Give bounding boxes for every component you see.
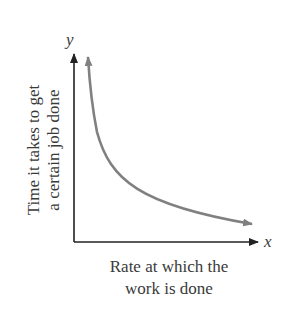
y-axis-label-line-1: Time it takes to get bbox=[24, 45, 44, 255]
x-axis-variable: x bbox=[264, 232, 272, 252]
y-axis-variable: y bbox=[66, 30, 74, 50]
y-axis-label-line-2: a certain job done bbox=[44, 45, 64, 255]
inverse-curve-top bbox=[88, 57, 97, 132]
x-axis-label-line-2: work is done bbox=[74, 278, 264, 300]
inverse-curve bbox=[97, 132, 252, 224]
x-axis-label-line-1: Rate at which the bbox=[74, 256, 264, 278]
x-axis-label: Rate at which the work is done bbox=[74, 256, 264, 300]
y-axis-label: Time it takes to get a certain job done bbox=[24, 45, 64, 255]
